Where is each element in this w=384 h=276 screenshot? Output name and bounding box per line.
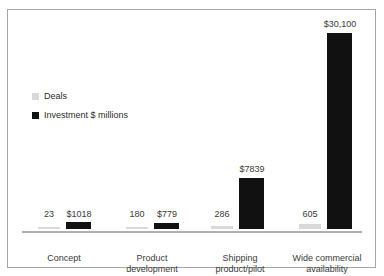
legend-swatch-deals-icon	[32, 93, 39, 100]
category-label-shipping-product-pilot: Shipping product/pilot	[194, 253, 286, 275]
category-label-concept: Concept	[18, 253, 110, 264]
category-label-product-development: Product development	[106, 253, 198, 275]
legend-swatch-investment-icon	[32, 112, 39, 119]
bar-label-investment-wide-commercial-availability: $30,100	[320, 19, 360, 29]
bar-label-deals-concept: 23	[38, 209, 60, 219]
chart-legend: Deals Investment $ millions	[32, 91, 128, 129]
bar-investment-shipping-product-pilot[interactable]	[239, 178, 264, 229]
bar-investment-product-development[interactable]	[154, 223, 179, 229]
category-label-wide-commercial-availability-line2: availability	[281, 264, 373, 275]
bar-deals-shipping-product-pilot[interactable]	[211, 226, 233, 229]
bar-label-investment-concept: $1018	[60, 209, 98, 219]
bar-investment-concept[interactable]	[66, 222, 91, 229]
legend-item-deals[interactable]: Deals	[32, 91, 128, 101]
plot-area: 23 $1018 Concept 180 $779 Product develo…	[8, 10, 375, 267]
bar-deals-concept[interactable]	[38, 227, 60, 229]
category-label-wide-commercial-availability: Wide commercial availability	[281, 253, 373, 275]
x-axis-baseline	[22, 231, 362, 233]
bar-label-investment-shipping-product-pilot: $7839	[233, 164, 271, 174]
bar-label-deals-wide-commercial-availability: 605	[299, 209, 321, 219]
bar-investment-wide-commercial-availability[interactable]	[327, 33, 352, 229]
legend-label-deals: Deals	[44, 91, 67, 101]
category-label-shipping-product-pilot-line1: Shipping	[194, 253, 286, 264]
bar-deals-product-development[interactable]	[126, 227, 148, 229]
category-label-wide-commercial-availability-line1: Wide commercial	[281, 253, 373, 264]
legend-label-investment: Investment $ millions	[44, 110, 128, 120]
legend-item-investment[interactable]: Investment $ millions	[32, 110, 128, 120]
bar-label-deals-product-development: 180	[126, 209, 148, 219]
category-label-shipping-product-pilot-line2: product/pilot	[194, 264, 286, 275]
chart-frame: 23 $1018 Concept 180 $779 Product develo…	[7, 9, 376, 268]
category-label-product-development-line1: Product	[106, 253, 198, 264]
category-label-concept-line1: Concept	[18, 253, 110, 264]
bar-label-investment-product-development: $779	[148, 209, 186, 219]
category-label-product-development-line2: development	[106, 264, 198, 275]
bar-deals-wide-commercial-availability[interactable]	[299, 224, 321, 229]
bar-label-deals-shipping-product-pilot: 286	[211, 209, 233, 219]
